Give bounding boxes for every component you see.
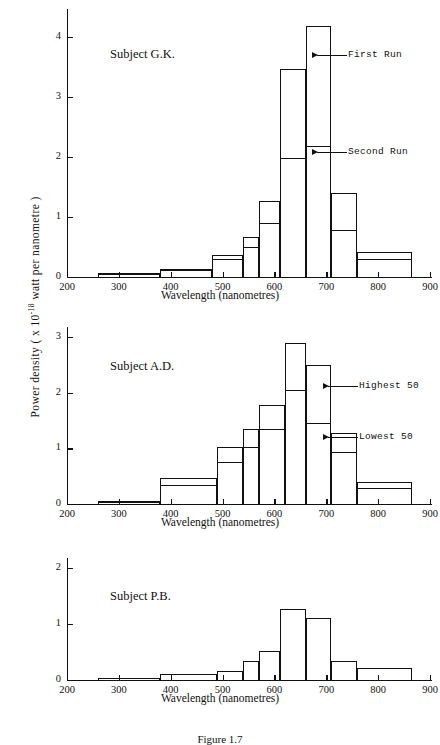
y-axis-tick — [68, 624, 73, 625]
figure-caption: Figure 1.7 — [0, 733, 440, 745]
x-axis-tick-label: 800 — [363, 684, 393, 695]
x-axis-tick-label: 900 — [415, 684, 440, 695]
x-axis-tick — [430, 675, 431, 680]
panel-pb: 012200300400500600700800900Subject P.B.W… — [0, 0, 440, 745]
bar — [331, 661, 357, 681]
bar — [217, 671, 243, 681]
y-axis-tick-label: 0 — [43, 673, 61, 684]
x-axis-tick-label: 200 — [52, 684, 82, 695]
bar — [280, 609, 306, 681]
bar — [243, 661, 259, 681]
subject-label: Subject P.B. — [110, 589, 171, 604]
y-axis-tick-label: 1 — [43, 617, 61, 628]
bar — [160, 674, 217, 681]
bar — [259, 651, 280, 681]
x-axis-title: Wavelength (nanometres) — [90, 692, 350, 704]
y-axis-tick-label: 2 — [43, 561, 61, 572]
bar — [98, 678, 160, 681]
y-axis-tick — [68, 568, 73, 569]
bar — [357, 668, 411, 681]
figure-root: Power density ( x 10-18 watt per nanomet… — [0, 0, 440, 745]
y-axis-line — [67, 558, 68, 681]
bar — [306, 618, 332, 681]
